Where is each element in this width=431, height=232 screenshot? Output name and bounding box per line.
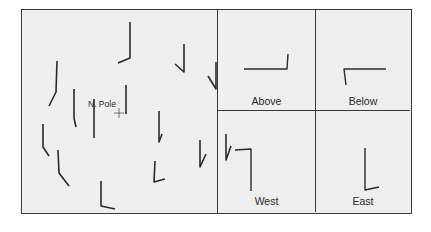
- north-pole-label: N. Pole: [88, 99, 116, 109]
- panel-below: Below: [316, 10, 410, 111]
- panel-west: West: [218, 111, 316, 212]
- field-stroke: [175, 44, 184, 72]
- caption-above: Above: [218, 95, 315, 107]
- field-stroke: [43, 124, 49, 156]
- field-stroke: [118, 22, 130, 63]
- caption-below: Below: [316, 95, 410, 107]
- field-stroke: [74, 89, 76, 127]
- field-stroke: [159, 111, 162, 142]
- field-stroke: [101, 181, 115, 209]
- caption-west: West: [218, 195, 315, 207]
- panel-east: East: [316, 111, 410, 212]
- field-stroke: [200, 140, 206, 167]
- caption-east: East: [316, 195, 410, 207]
- figure-frame: N. Pole Above Below West East: [21, 9, 412, 214]
- stroke-field: [22, 10, 218, 215]
- field-stroke: [49, 61, 57, 106]
- north-pole-panel: N. Pole: [22, 10, 218, 213]
- field-stroke: [154, 161, 165, 182]
- field-stroke: [208, 62, 216, 89]
- panel-above: Above: [218, 10, 316, 111]
- field-stroke: [58, 150, 69, 186]
